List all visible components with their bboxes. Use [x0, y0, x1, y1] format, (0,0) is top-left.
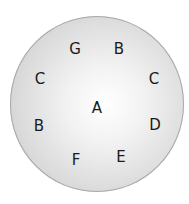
center-label: A — [92, 101, 102, 116]
ring-label-lower-left: B — [34, 119, 44, 134]
ring-label-top-right: B — [114, 42, 124, 57]
ring-label-upper-right: C — [149, 72, 159, 87]
ring-label-lower-right: D — [149, 118, 161, 133]
ring-label-top-left: G — [69, 42, 81, 57]
ring-label-upper-left: C — [35, 72, 45, 87]
ring-label-bottom-right: E — [116, 150, 125, 165]
ring-label-bottom-left: F — [72, 153, 81, 168]
